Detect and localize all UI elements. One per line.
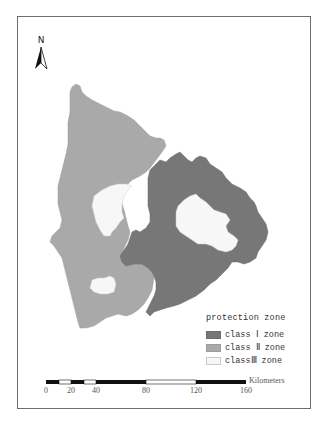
scale-tick-label: 120 bbox=[190, 386, 202, 395]
legend-swatch-class-1 bbox=[206, 331, 221, 339]
scale-tick-label: 80 bbox=[142, 386, 150, 395]
legend-label: classⅢ zone bbox=[225, 355, 282, 366]
scale-tick-label: 160 bbox=[240, 386, 252, 395]
north-label: N bbox=[34, 36, 48, 45]
legend-item-class-1: class Ⅰ zone bbox=[206, 329, 286, 340]
legend: protection zone class Ⅰ zone class Ⅱ zon… bbox=[206, 313, 286, 368]
scale-tick-label: 0 bbox=[44, 386, 48, 395]
legend-swatch-class-3 bbox=[206, 357, 221, 365]
legend-item-class-2: class Ⅱ zone bbox=[206, 342, 286, 353]
legend-swatch-class-2 bbox=[206, 344, 221, 352]
north-arrow-icon bbox=[34, 45, 48, 71]
scale-tick-label: 20 bbox=[67, 386, 75, 395]
legend-title: protection zone bbox=[206, 313, 286, 323]
legend-label: class Ⅱ zone bbox=[225, 342, 285, 353]
legend-item-class-3: classⅢ zone bbox=[206, 355, 286, 366]
scale-tick-label: 40 bbox=[92, 386, 100, 395]
scale-unit-label: Kilometers bbox=[249, 376, 285, 385]
legend-label: class Ⅰ zone bbox=[225, 329, 284, 340]
scale-bar-graphic bbox=[46, 379, 262, 385]
north-arrow: N bbox=[34, 36, 48, 75]
